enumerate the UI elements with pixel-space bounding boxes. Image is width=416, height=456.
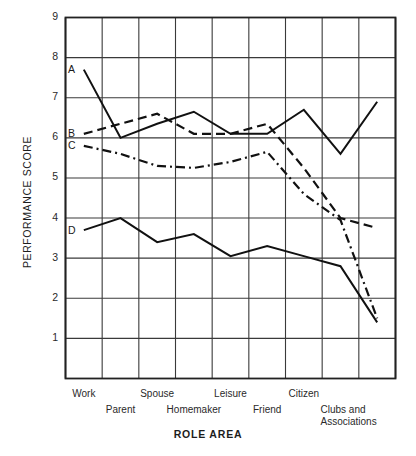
y-axis-tick-label: 6: [36, 130, 58, 142]
x-axis-tick-label: Clubs and Associations: [321, 404, 387, 427]
y-axis-tick-label: 1: [36, 331, 58, 343]
plot-frame: [66, 18, 396, 379]
x-axis-tick-label: Friend: [253, 404, 281, 415]
series-label-b: B: [68, 127, 75, 139]
series-line-d: [84, 218, 377, 322]
x-axis-tick-label: Citizen: [289, 388, 320, 399]
y-axis-tick-label: 8: [36, 50, 58, 62]
y-axis-tick-label: 9: [36, 10, 58, 22]
plot-area: [0, 0, 416, 456]
line-chart-figure: PERFORMANCE SCORE ROLE AREA 123456789 Wo…: [0, 0, 416, 456]
y-axis-title: PERFORMANCE SCORE: [21, 102, 33, 302]
x-axis-tick-label: Homemaker: [167, 404, 221, 415]
y-axis-tick-label: 3: [36, 251, 58, 263]
series-line-a: [84, 70, 377, 154]
x-axis-title: ROLE AREA: [0, 428, 416, 440]
series-line-b: [84, 114, 377, 228]
x-axis-tick-label: Parent: [106, 404, 135, 415]
series-label-c: C: [68, 139, 76, 151]
y-axis-tick-label: 4: [36, 211, 58, 223]
series-label-a: A: [68, 63, 75, 75]
series-label-d: D: [68, 224, 76, 236]
y-axis-tick-label: 7: [36, 90, 58, 102]
y-axis-tick-label: 5: [36, 170, 58, 182]
series-line-c: [84, 146, 377, 318]
x-axis-tick-label: Spouse: [140, 388, 174, 399]
x-axis-tick-label: Leisure: [214, 388, 247, 399]
x-axis-tick-label: Work: [72, 388, 95, 399]
y-axis-tick-label: 2: [36, 291, 58, 303]
